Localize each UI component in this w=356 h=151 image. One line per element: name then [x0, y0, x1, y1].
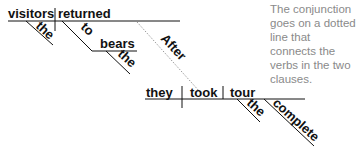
- word-after: After: [158, 31, 190, 63]
- word-to: to: [78, 19, 97, 38]
- word-visitors: visitors: [8, 6, 54, 21]
- word-complete: complete: [270, 95, 322, 144]
- word-bears: bears: [100, 36, 135, 51]
- word-they: they: [146, 85, 174, 100]
- annotation-note: The conjunction goes on a dotted line th…: [270, 2, 356, 86]
- word-the-1: the: [33, 18, 58, 42]
- word-returned: returned: [58, 6, 111, 21]
- word-took: took: [190, 85, 218, 100]
